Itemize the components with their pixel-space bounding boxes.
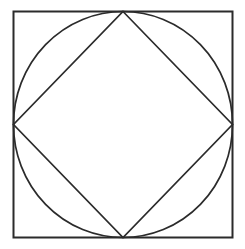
figure-canvas [0, 0, 245, 249]
geometry-diagram [0, 0, 245, 249]
inscribed-circle-shape [14, 12, 233, 238]
outer-square-shape [14, 12, 233, 238]
inscribed-diamond-shape [14, 12, 233, 238]
